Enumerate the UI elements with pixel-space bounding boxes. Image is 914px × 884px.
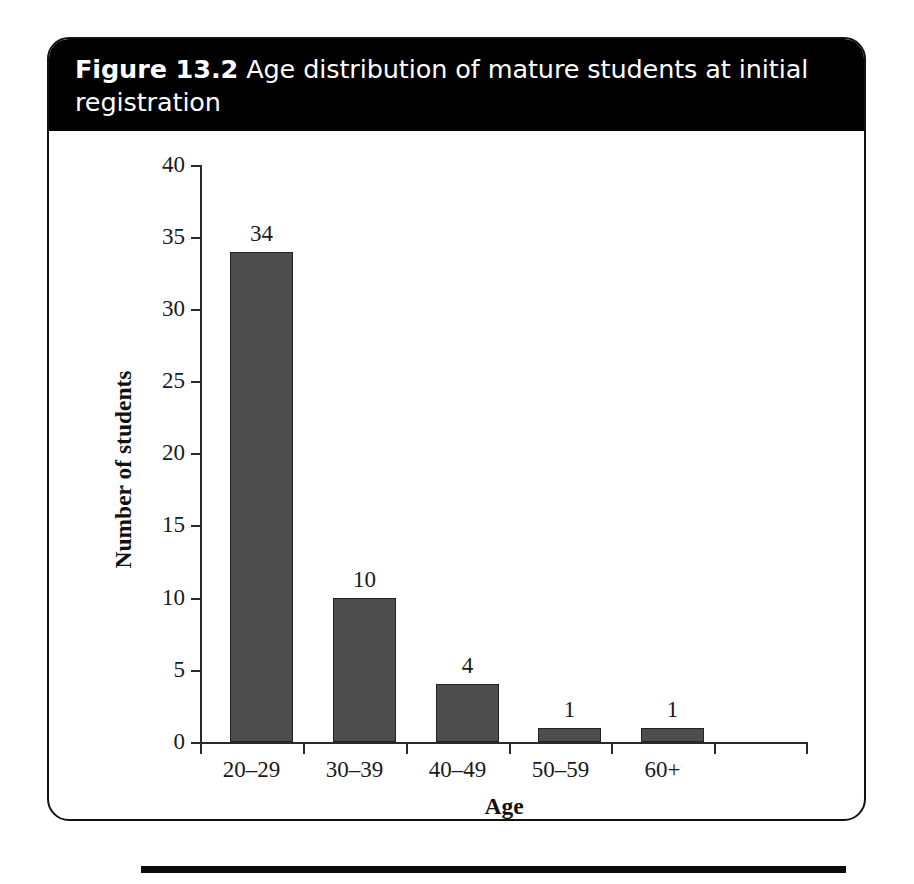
x-axis-tick	[806, 744, 808, 754]
bar-20-29	[230, 252, 293, 742]
bar-60-plus	[641, 728, 704, 742]
bar-value-label: 34	[221, 221, 302, 247]
y-axis-tick-label: 35	[139, 224, 185, 250]
bar-value-label: 4	[427, 653, 508, 679]
x-axis-tick	[611, 744, 613, 754]
bar-value-label: 10	[324, 567, 405, 593]
y-axis-tick	[191, 598, 200, 600]
x-axis-category-label-60-plus: 60+	[611, 757, 714, 783]
bar-value-label: 1	[529, 697, 610, 723]
y-axis-tick	[191, 381, 200, 383]
x-axis-category-label-30-39: 30–39	[303, 757, 406, 783]
figure-number: Figure 13.2	[75, 54, 238, 84]
x-axis-tick	[406, 744, 408, 754]
x-axis-tick	[303, 744, 305, 754]
y-axis-tick	[191, 525, 200, 527]
bar-value-label: 1	[632, 697, 713, 723]
bar-40-49	[436, 684, 499, 742]
x-axis-category-label-40-49: 40–49	[406, 757, 509, 783]
y-axis-tick-label: 20	[139, 440, 185, 466]
y-axis-tick-label: 25	[139, 368, 185, 394]
y-axis-tick	[191, 165, 200, 167]
bar-30-39	[333, 598, 396, 742]
x-axis-category-label-20-29: 20–29	[200, 757, 303, 783]
y-axis-tick	[191, 453, 200, 455]
figure-caption: Figure 13.2 Age distribution of mature s…	[75, 53, 838, 119]
x-axis-tick	[200, 744, 202, 754]
y-axis-tick-label: 15	[139, 512, 185, 538]
figure-caption-banner: Figure 13.2 Age distribution of mature s…	[49, 39, 864, 131]
y-axis-title: Number of students	[110, 360, 137, 580]
y-axis-tick	[191, 237, 200, 239]
y-axis-tick-label: 30	[139, 296, 185, 322]
chart-plot-area: 0 5 10 15 20 25 30 35 40	[49, 131, 864, 823]
x-axis-title: Age	[200, 793, 808, 820]
x-axis-spine	[200, 742, 808, 744]
y-axis-tick-label: 40	[139, 152, 185, 178]
x-axis-category-label-50-59: 50–59	[509, 757, 612, 783]
y-axis-tick	[191, 309, 200, 311]
y-axis-tick	[191, 670, 200, 672]
y-axis-tick-label: 5	[139, 657, 185, 683]
figure-box: Figure 13.2 Age distribution of mature s…	[47, 37, 866, 821]
y-axis-tick-label: 10	[139, 585, 185, 611]
x-axis-tick	[714, 744, 716, 754]
y-axis-tick	[191, 742, 200, 744]
y-axis-spine	[200, 165, 202, 743]
y-axis-tick-label: 0	[139, 729, 185, 755]
bar-50-59	[538, 728, 601, 742]
x-axis-tick	[509, 744, 511, 754]
bottom-rule	[141, 866, 846, 873]
